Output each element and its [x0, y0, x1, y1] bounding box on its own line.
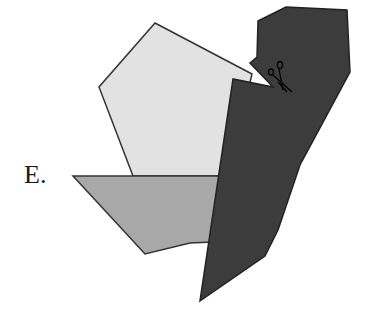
geometric-figure — [0, 0, 385, 320]
option-label: E. — [24, 160, 46, 190]
dark-cut-piece — [200, 7, 350, 301]
medium-trapezoid — [73, 176, 230, 254]
